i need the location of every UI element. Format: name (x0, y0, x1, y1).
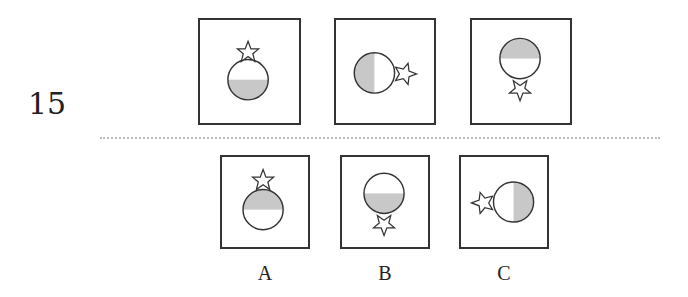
option-panel-c[interactable] (459, 155, 549, 249)
star-icon (237, 41, 258, 61)
sequence-panel-1 (198, 18, 301, 125)
dotted-divider (100, 137, 660, 139)
star-icon (253, 170, 274, 190)
option-label-a: A (245, 262, 285, 285)
option-label-c: C (484, 262, 524, 285)
question-number: 15 (28, 86, 66, 121)
star-icon (396, 63, 417, 84)
sequence-panel-2 (334, 18, 436, 125)
star-icon (509, 81, 530, 101)
star-icon (374, 215, 395, 235)
circle-star-figure (342, 157, 428, 247)
circle-star-figure (461, 157, 547, 247)
option-panel-b[interactable] (340, 155, 430, 249)
option-panel-a[interactable] (220, 155, 310, 249)
circle-star-figure (472, 20, 570, 123)
circle-star-figure (336, 20, 434, 123)
sequence-panel-3 (470, 18, 572, 125)
circle-star-figure (200, 20, 299, 123)
star-icon (472, 192, 493, 213)
option-label-b: B (365, 262, 405, 285)
circle-star-figure (222, 157, 308, 247)
